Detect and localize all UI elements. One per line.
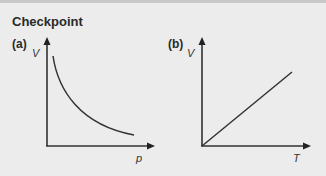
graphs bbox=[0, 0, 326, 176]
panel-b-x-arrow-icon bbox=[303, 143, 311, 150]
panel-a-axes bbox=[46, 44, 148, 146]
panel-a-x-arrow-icon bbox=[147, 143, 155, 150]
panel-a-curve bbox=[53, 56, 134, 135]
panel-b-axes bbox=[201, 44, 304, 146]
panel-b-y-arrow-icon bbox=[199, 37, 206, 45]
panel-b-line bbox=[202, 72, 292, 146]
panel-a-y-arrow-icon bbox=[44, 37, 51, 45]
